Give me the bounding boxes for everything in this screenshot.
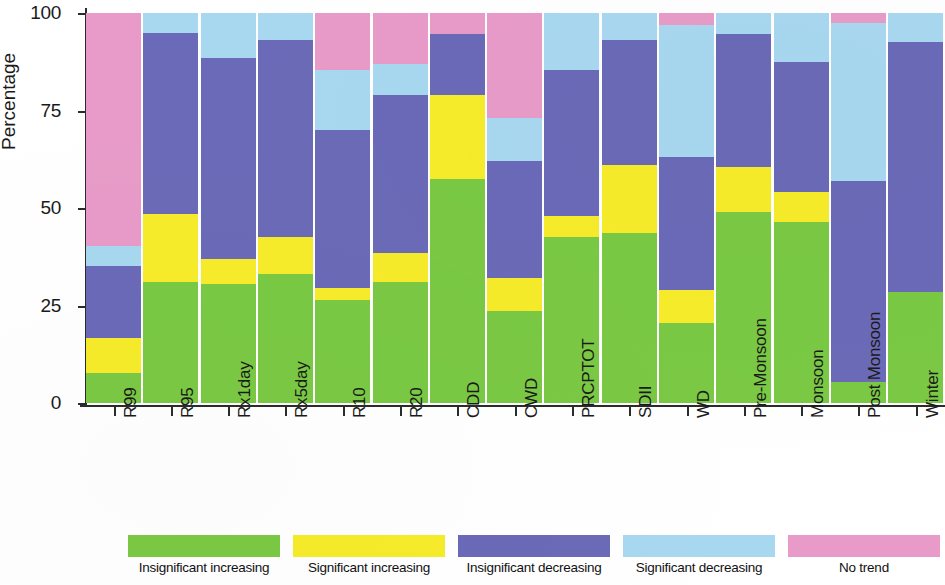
bar-r99: [86, 13, 141, 403]
bar-winter: [888, 13, 943, 403]
bar-segment: [143, 214, 198, 282]
bar-segment: [315, 70, 370, 130]
x-tick-mark: [457, 407, 459, 416]
bar-segment: [716, 13, 771, 34]
bar-segment: [86, 266, 141, 338]
bar-rx5day: [258, 13, 313, 403]
bar-cwd: [487, 13, 542, 403]
bar-segment: [544, 70, 599, 216]
bar-segment: [315, 130, 370, 288]
bar-segment: [430, 34, 485, 94]
bar-segment: [716, 34, 771, 167]
legend-item: Significant decreasing: [623, 535, 775, 575]
bar-segment: [258, 13, 313, 40]
y-tick-mark: [78, 111, 85, 113]
bar-segment: [487, 278, 542, 311]
bar-segment: [373, 253, 428, 282]
x-tick-mark: [228, 407, 230, 416]
bar-r20: [373, 13, 428, 403]
bar-rx1day: [201, 13, 256, 403]
plot-area: [86, 13, 945, 403]
x-tick-mark: [285, 407, 287, 416]
bar-cdd: [430, 13, 485, 403]
y-tick-mark: [78, 208, 85, 210]
bar-segment: [430, 13, 485, 34]
legend-label: Insignificant increasing: [128, 560, 280, 575]
bar-segment: [373, 282, 428, 403]
y-tick-label: 25: [40, 295, 61, 317]
legend-swatch: [458, 535, 610, 557]
x-tick-label: Post Monsoon: [865, 312, 885, 418]
bar-segment: [831, 13, 886, 23]
legend-item: No trend: [788, 535, 940, 575]
y-axis-title: Percentage: [0, 53, 20, 150]
legend-swatch: [623, 535, 775, 557]
bar-segment: [487, 161, 542, 278]
bar-segment: [774, 192, 829, 221]
y-tick-label: 50: [40, 197, 61, 219]
bar-segment: [659, 157, 714, 290]
x-tick-mark: [744, 407, 746, 416]
bar-wd: [659, 13, 714, 403]
bar-segment: [201, 58, 256, 259]
bar-segment: [373, 13, 428, 64]
x-tick-label: Rx5day: [292, 362, 312, 418]
bar-segment: [774, 13, 829, 62]
bar-segment: [659, 25, 714, 158]
bar-segment: [716, 167, 771, 212]
bar-segment: [831, 23, 886, 181]
bar-r10: [315, 13, 370, 403]
x-tick-mark: [343, 407, 345, 416]
bar-sdii: [602, 13, 657, 403]
bar-segment: [143, 33, 198, 214]
x-tick-mark: [114, 407, 116, 416]
bar-segment: [602, 40, 657, 165]
bar-segment: [373, 64, 428, 95]
x-tick-mark: [916, 407, 918, 416]
bar-segment: [430, 95, 485, 179]
x-tick-label: CDD: [464, 382, 484, 418]
bar-segment: [373, 95, 428, 253]
bar-segment: [315, 13, 370, 70]
legend-item: Significant increasing: [293, 535, 445, 575]
x-tick-mark: [400, 407, 402, 416]
bar-segment: [774, 62, 829, 193]
bar-segment: [544, 13, 599, 70]
x-tick-mark: [572, 407, 574, 416]
legend-label: Significant increasing: [293, 560, 445, 575]
y-tick-mark: [78, 13, 85, 15]
x-tick-mark: [801, 407, 803, 416]
bar-segment: [602, 13, 657, 40]
x-tick-mark: [629, 407, 631, 416]
bar-r95: [143, 13, 198, 403]
x-tick-label: R95: [178, 387, 198, 418]
legend-swatch: [788, 535, 940, 557]
legend-item: Insignificant increasing: [128, 535, 280, 575]
x-tick-mark: [858, 407, 860, 416]
x-tick-mark: [171, 407, 173, 416]
legend-item: Insignificant decreasing: [458, 535, 610, 575]
legend-swatch: [128, 535, 280, 557]
bar-segment: [258, 237, 313, 274]
chart-legend: Insignificant increasingSignificant incr…: [0, 535, 945, 585]
x-tick-label: Pre-Monsoon: [751, 318, 771, 418]
y-tick-label: 75: [40, 100, 61, 122]
bar-segment: [86, 338, 141, 373]
bar-segment: [86, 246, 141, 266]
bar-segment: [888, 13, 943, 42]
bar-segment: [86, 13, 141, 246]
bar-monsoon: [774, 13, 829, 403]
bar-segment: [659, 290, 714, 323]
bar-segment: [315, 288, 370, 300]
bar-segment: [602, 165, 657, 233]
legend-label: Significant decreasing: [623, 560, 775, 575]
bar-segment: [201, 13, 256, 58]
legend-label: No trend: [788, 560, 940, 575]
bar-segment: [430, 179, 485, 403]
legend-swatch: [293, 535, 445, 557]
legend-label: Insignificant decreasing: [458, 560, 610, 575]
bar-segment: [201, 259, 256, 284]
x-tick-label: R10: [350, 387, 370, 418]
x-tick-mark: [515, 407, 517, 416]
x-tick-label: SDII: [636, 386, 656, 418]
